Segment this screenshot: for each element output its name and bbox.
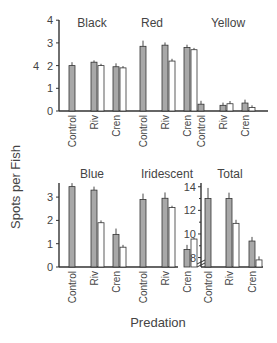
category-label: Cren	[240, 115, 251, 137]
bar	[91, 190, 97, 267]
category-label: Cren	[182, 115, 193, 137]
category-label: Cren	[182, 271, 193, 293]
bar	[198, 104, 204, 111]
bar	[98, 223, 104, 267]
y-tick-label: 12	[184, 204, 196, 216]
bar	[226, 199, 232, 267]
y-tick-label: 0	[47, 261, 53, 273]
panel-title: Red	[141, 16, 163, 30]
category-label: Cren	[111, 271, 122, 293]
y-tick-label: 8	[190, 252, 196, 264]
y-tick-label: 14	[184, 181, 196, 193]
bar	[227, 104, 233, 111]
panel-title: Total	[217, 167, 242, 181]
side-number: 4	[33, 60, 39, 72]
bar	[242, 103, 248, 111]
bar	[113, 234, 119, 267]
bar	[69, 187, 75, 267]
y-tick-label: 2	[47, 214, 53, 226]
y-tick-label: 3	[47, 37, 53, 49]
category-label: Control	[138, 115, 149, 147]
bar	[113, 67, 119, 111]
bar	[120, 68, 126, 111]
category-label: Riv	[89, 115, 100, 129]
bar	[249, 108, 255, 111]
x-axis-label: Predation	[130, 315, 186, 330]
y-tick-label: 2	[47, 60, 53, 72]
bar	[220, 105, 226, 111]
category-label: Riv	[89, 271, 100, 285]
y-tick-label: 10	[184, 228, 196, 240]
category-label: Control	[67, 271, 78, 303]
y-tick-label: 1	[47, 82, 53, 94]
panel-title: Yellow	[211, 16, 246, 30]
panel-title: Iridescent	[141, 167, 194, 181]
category-label: Control	[203, 271, 214, 303]
bar	[162, 45, 168, 111]
bar	[140, 199, 146, 267]
category-label: Control	[196, 115, 207, 147]
bar	[98, 66, 104, 111]
category-label: Riv	[160, 115, 171, 129]
bar	[169, 61, 175, 111]
category-label: Control	[67, 115, 78, 147]
bar	[120, 247, 126, 267]
bar	[249, 241, 255, 267]
bar	[233, 223, 239, 267]
bar	[205, 199, 211, 267]
bar	[256, 260, 262, 267]
category-label: Riv	[218, 115, 229, 129]
panel-title: Blue	[80, 167, 104, 181]
bar	[140, 46, 146, 111]
category-label: Riv	[160, 271, 171, 285]
bar	[91, 62, 97, 111]
category-label: Cren	[247, 271, 258, 293]
bar	[69, 66, 75, 111]
y-axis-label: Spots per Fish	[8, 145, 23, 229]
bar	[162, 198, 168, 267]
bar	[169, 208, 175, 267]
y-tick-label: 4	[47, 14, 53, 26]
category-label: Control	[138, 271, 149, 303]
bars	[69, 41, 262, 267]
labels: Spots per Fish Predation 4 0123401238101…	[8, 14, 258, 330]
y-tick-label: 3	[47, 191, 53, 203]
spots-per-fish-chart: Spots per Fish Predation 4 0123401238101…	[0, 0, 277, 343]
bar	[184, 47, 190, 111]
y-tick-label: 1	[47, 238, 53, 250]
category-label: Riv	[224, 271, 235, 285]
y-tick-label: 0	[47, 105, 53, 117]
category-label: Cren	[111, 115, 122, 137]
bar	[191, 50, 197, 111]
panel-title: Black	[77, 16, 107, 30]
